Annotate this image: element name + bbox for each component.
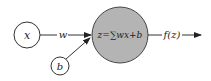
weight-label: w — [59, 29, 68, 40]
neuron-formula: z=∑wx+b — [97, 30, 143, 40]
neuron-diagram: x w b z=∑wx+b f(z) — [0, 0, 211, 81]
input-label: x — [24, 29, 31, 42]
output-label: f(z) — [163, 29, 181, 40]
bias-edge — [66, 38, 90, 59]
bias-label: b — [57, 61, 63, 72]
